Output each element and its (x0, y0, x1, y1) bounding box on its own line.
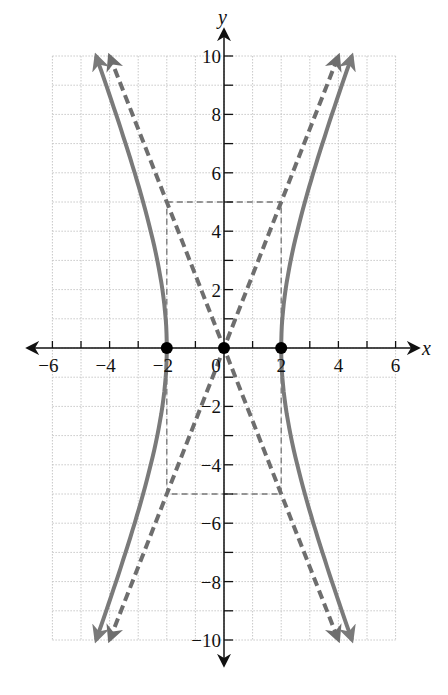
point-vertex-left (161, 342, 173, 354)
y-tick-label: 6 (212, 163, 222, 184)
y-tick-label: −8 (201, 572, 221, 593)
y-tick-label: −2 (201, 396, 221, 417)
y-tick-label: 10 (202, 46, 221, 67)
x-tick-label: −2 (153, 355, 173, 376)
y-axis-label: y (216, 6, 227, 29)
tick-labels: −6−4−20246108642−2−4−6−8−10xy (38, 6, 431, 651)
x-tick-label: 6 (391, 355, 401, 376)
y-tick-label: −10 (191, 630, 221, 651)
y-tick-label: −6 (201, 513, 221, 534)
point-vertex-right (275, 342, 287, 354)
x-tick-label: 4 (334, 355, 344, 376)
x-tick-label: −6 (38, 355, 58, 376)
x-axis-label: x (421, 337, 431, 359)
x-tick-label: 0 (211, 355, 221, 376)
x-tick-label: 2 (276, 355, 286, 376)
hyperbola-graph: −6−4−20246108642−2−4−6−8−10xy (0, 0, 448, 695)
y-tick-label: −4 (201, 455, 222, 476)
y-tick-label: 4 (212, 221, 222, 242)
point-center (218, 342, 230, 354)
y-tick-label: 8 (212, 104, 222, 125)
x-tick-label: −4 (95, 355, 116, 376)
y-tick-label: 2 (212, 280, 222, 301)
